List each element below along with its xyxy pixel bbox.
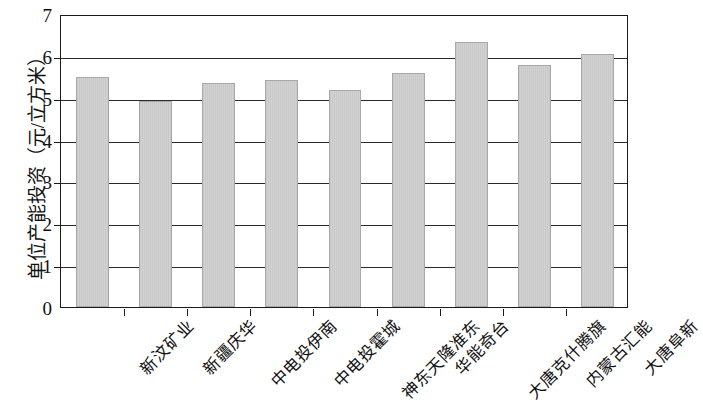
bar (139, 101, 172, 307)
y-tickmark (54, 225, 61, 226)
y-tick-label: 1 (26, 257, 52, 276)
x-category-label: 中电投霍城 (328, 314, 405, 391)
x-category-label: 中电投伊南 (265, 314, 342, 391)
y-tick-label: 5 (26, 89, 52, 108)
bar (76, 77, 109, 307)
y-tickmark (54, 58, 61, 59)
x-category-label: 新汶矿业 (133, 314, 198, 379)
y-tick-label: 4 (26, 131, 52, 150)
y-tickmark (54, 183, 61, 184)
y-tickmark (54, 142, 61, 143)
bar (265, 80, 298, 307)
x-axis-category-labels: 新汶矿业新疆庆华中电投伊南中电投霍城神东天隆准东华能奇台大唐克什腾旗内蒙古汇能大… (60, 308, 628, 415)
y-tick-label: 7 (26, 6, 52, 25)
y-tickmark (54, 100, 61, 101)
plot-area (60, 15, 628, 308)
x-category-label: 新疆庆华 (197, 314, 262, 379)
bar (455, 42, 488, 307)
bar (329, 90, 362, 307)
bar (392, 73, 425, 307)
y-tick-label: 2 (26, 215, 52, 234)
bar (518, 65, 551, 307)
y-tickmark (54, 267, 61, 268)
bars-layer (61, 16, 627, 307)
bar (202, 83, 235, 307)
y-tick-label: 6 (26, 47, 52, 66)
bar (581, 54, 614, 307)
y-tick-label: 0 (26, 299, 52, 318)
y-axis-tick-labels: 01234567 (26, 0, 52, 415)
y-tick-label: 3 (26, 173, 52, 192)
